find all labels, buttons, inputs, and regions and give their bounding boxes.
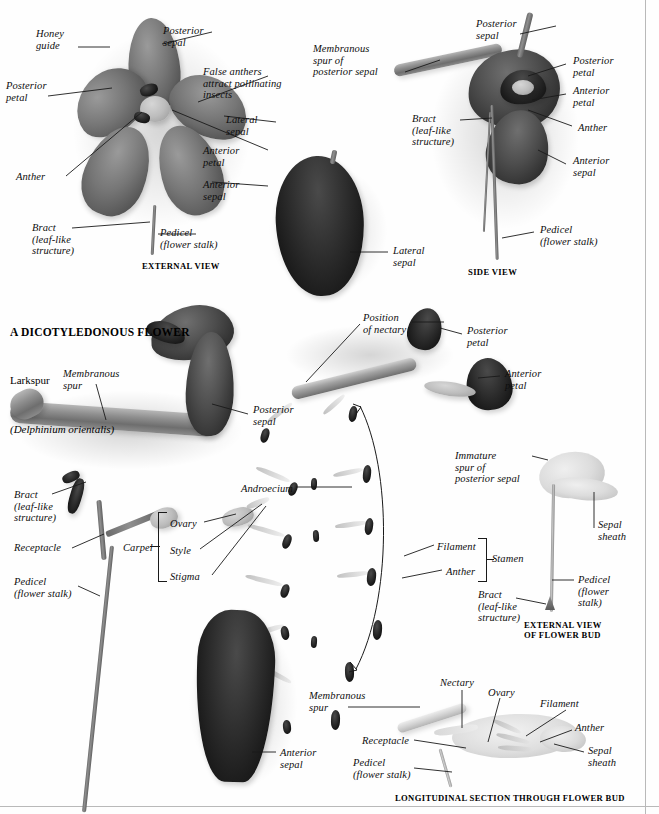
label-bract-receptacle: Bract (leaf-like structure): [14, 489, 56, 524]
art-posterior-sepal-tip-side-view: [517, 12, 534, 58]
art-receptacle-stalk: [96, 500, 106, 560]
lateral-sepal-shadow: [268, 165, 388, 295]
art-side-view-anterior-sepal: [481, 105, 555, 189]
art-bract-tip: [61, 469, 82, 485]
caption-external-view-of-flower-bud: EXTERNAL VIEW OF FLOWER BUD: [524, 620, 602, 640]
label-membranous-spur: Membranous spur: [63, 368, 119, 391]
art-pedicel-long: [82, 546, 114, 813]
label-receptacle: Receptacle: [14, 542, 61, 554]
page-right-rule: [645, 0, 646, 814]
label-anterior-sepal-ev: Anterior sepal: [203, 179, 239, 202]
label-anterior-petal-specimen: Anterior petal: [505, 368, 541, 391]
caption-side-view: SIDE VIEW: [468, 267, 517, 277]
label-receptacle-ls: Receptacle: [362, 735, 409, 747]
art-ls-membranous-spur: [396, 702, 468, 734]
label-membranous-spur-of-posterior-sepal: Membranous spur of posterior sepal: [313, 43, 378, 78]
art-pedicel-side-view: [490, 105, 498, 260]
label-posterior-petal-sv: Posterior petal: [573, 55, 614, 78]
art-anther-centre-1: [139, 82, 160, 99]
label-anther-sv: Anther: [578, 122, 607, 134]
art-false-anthers: [140, 96, 170, 122]
label-posterior-petal-specimen: Posterior petal: [467, 325, 508, 348]
label-filament-ls: Filament: [540, 698, 579, 710]
art-ls-body: [451, 712, 578, 760]
label-sepal-sheath-ls: Sepal sheath: [588, 745, 616, 768]
label-anther-ls: Anther: [575, 722, 604, 734]
art-ls-filament-1: [492, 718, 521, 735]
plate-title-line1: A DICOTYLEDONOUS FLOWER: [10, 326, 190, 338]
art-ls-pedicel: [439, 748, 453, 787]
art-anterior-sepal-specimen: [193, 609, 277, 784]
label-pedicel-bud: Pedicel (flower stalk): [578, 574, 610, 609]
label-lateral-sepal-ev: Lateral sepal: [226, 114, 258, 137]
label-lateral-sepal-specimen: Lateral sepal: [393, 245, 425, 268]
art-posterior-petal-specimen: [290, 357, 417, 401]
label-false-anthers: False anthers attract pollinating insect…: [203, 66, 282, 101]
label-bract-ev: Bract (leaf-like structure): [32, 222, 74, 257]
botanical-plate-page: A DICOTYLEDONOUS FLOWER Larkspur (Delphi…: [0, 0, 659, 814]
label-bract-bud: Bract (leaf-like structure): [478, 589, 520, 624]
art-ls-filament-2: [496, 732, 530, 745]
art-posterior-sepal-body: [184, 331, 236, 437]
art-anterior-sepal-right: [146, 117, 234, 224]
label-ovary-ls: Ovary: [488, 687, 515, 699]
page-bottom-rule: [0, 806, 659, 807]
label-style: Style: [170, 545, 191, 557]
stamen-bracket: [478, 538, 487, 582]
art-ls-nectary: [434, 723, 479, 737]
caption-external-view: EXTERNAL VIEW: [142, 261, 220, 271]
art-anterior-sepal-left: [71, 117, 163, 226]
label-anterior-petal-ev: Anterior petal: [203, 145, 239, 168]
art-side-view-false-anthers: [512, 80, 534, 95]
label-membranous-spur-ls: Membranous spur: [309, 690, 365, 713]
art-receptacle-arm: [105, 509, 165, 538]
label-stigma: Stigma: [170, 571, 200, 583]
androecium-arc: [320, 400, 400, 675]
art-anther-centre-2: [133, 110, 151, 125]
label-immature-spur: Immature spur of posterior sepal: [455, 450, 520, 485]
art-anterior-petal-claw: [423, 378, 476, 399]
label-filament: Filament: [437, 541, 476, 553]
label-bract-sv: Bract (leaf-like structure): [412, 113, 454, 148]
art-flower-bud-sheath: [547, 474, 619, 503]
art-lateral-sepal-specimen: [272, 154, 367, 298]
art-side-view-inner: [498, 68, 547, 107]
label-pedicel-ls: Pedicel (flower stalk): [353, 757, 411, 780]
art-bract-side-view: [483, 112, 491, 232]
label-posterior-petal-ev: Posterior petal: [6, 80, 47, 103]
caption-longitudinal-section: LONGITUDINAL SECTION THROUGH FLOWER BUD: [395, 793, 625, 803]
art-bract-blade: [65, 477, 86, 515]
label-posterior-sepal-sv: Posterior sepal: [476, 18, 517, 41]
plate-title-line3: (Delphinium orientalis): [10, 423, 190, 436]
label-carpel: Carpel: [123, 542, 153, 554]
carpel-bracket: [158, 512, 167, 582]
label-anterior-sepal-sv: Anterior sepal: [573, 155, 609, 178]
art-flower-bud-head: [536, 448, 608, 503]
art-carpel-ovary: [220, 504, 255, 529]
art-side-view-body: [463, 44, 565, 134]
art-pedicel-external-view: [151, 205, 157, 255]
label-sepal-sheath-bud: Sepal sheath: [598, 519, 626, 542]
art-posterior-petal-head: [403, 305, 446, 354]
label-anterior-petal-sv: Anterior petal: [573, 85, 609, 108]
label-pedicel-sv: Pedicel (flower stalk): [540, 224, 598, 247]
label-stamen: Stamen: [492, 553, 524, 565]
label-anther-androecium: Anther: [446, 566, 475, 578]
label-posterior-sepal-spur: Posterior sepal: [253, 404, 294, 427]
art-ls-filament-3: [498, 745, 534, 752]
label-nectary: Nectary: [440, 677, 474, 689]
label-ovary: Ovary: [170, 518, 197, 530]
label-pedicel-spur: Pedicel (flower stalk): [14, 576, 72, 599]
label-anterior-sepal-specimen: Anterior sepal: [280, 747, 316, 770]
label-anther-ev: Anther: [16, 171, 45, 183]
label-androecium: Androecium: [241, 483, 293, 495]
art-carpel-style: [246, 496, 271, 511]
art-lateral-sepal-left: [62, 54, 160, 149]
label-honey-guide: Honey guide: [36, 28, 64, 51]
art-flower-bud-pedicel: [550, 484, 555, 612]
label-position-of-nectary: Position of nectary: [363, 312, 406, 335]
art-membranous-spur-side-view: [393, 43, 503, 78]
label-pedicel-ev: Pedicel (flower stalk): [160, 227, 218, 250]
art-flower-bud-bract: [545, 596, 555, 610]
label-posterior-sepal-ev: Posterior sepal: [163, 25, 204, 48]
